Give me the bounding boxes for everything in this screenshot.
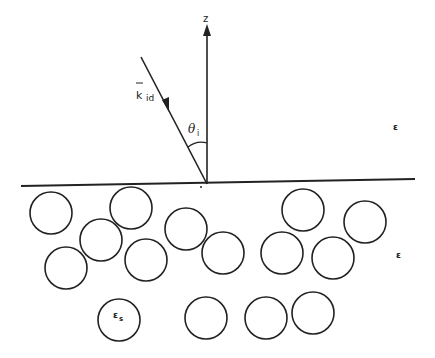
- scatterer-particle: [344, 201, 386, 243]
- scatterer-particle: [245, 297, 287, 339]
- scatterer-particle: [110, 187, 152, 229]
- scatterer-particle: [202, 232, 244, 274]
- incidence-angle-arc: [188, 142, 207, 147]
- scatterer-particle: [282, 189, 324, 231]
- scatterer-particle: [45, 247, 87, 289]
- scatterer-particle: [312, 237, 354, 279]
- scatterer-particle: [30, 192, 72, 234]
- scatterer-particle: [80, 219, 122, 261]
- z-axis-arrowhead: [203, 24, 211, 36]
- upper-medium-permittivity-label: ε: [393, 122, 398, 132]
- svg-text:ε: ε: [113, 310, 118, 320]
- scattering-diagram: z k id θ i ε ε ε s: [0, 0, 435, 358]
- svg-text:id: id: [146, 93, 154, 103]
- z-axis-label: z: [203, 13, 208, 24]
- scatterer-permittivity-label: ε s: [113, 310, 123, 323]
- scatterer-particle: [185, 297, 227, 339]
- lower-medium-permittivity-label: ε: [396, 250, 401, 260]
- incident-wave-line: [141, 57, 207, 184]
- svg-text:s: s: [119, 315, 123, 323]
- scatterer-particle: [261, 232, 303, 274]
- origin-dot: [200, 186, 202, 188]
- svg-text:k: k: [136, 89, 143, 102]
- scatterer-particle: [165, 208, 207, 250]
- svg-text:θ: θ: [188, 122, 196, 136]
- scatterer-particle: [292, 292, 334, 334]
- scatterer-particle: [125, 239, 167, 281]
- incident-wave-label: k id: [136, 83, 154, 103]
- interface-line: [21, 179, 415, 186]
- svg-text:i: i: [197, 129, 199, 138]
- incidence-angle-label: θ i: [188, 122, 199, 138]
- scatterer-group: [30, 187, 386, 341]
